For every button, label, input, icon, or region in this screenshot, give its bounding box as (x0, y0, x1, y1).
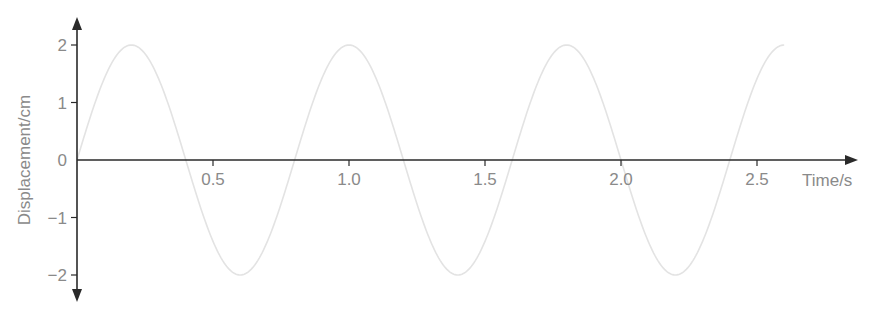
y-tick-label: −2 (48, 266, 67, 285)
y-tick-label: 0 (58, 151, 67, 170)
y-tick-label: −1 (48, 209, 67, 228)
x-tick-label: 2.5 (745, 170, 769, 189)
x-axis-title: Time/s (802, 171, 852, 190)
y-axis-arrow-down-icon (72, 289, 82, 302)
x-tick-label: 2.0 (609, 170, 633, 189)
x-tick-label: 1.0 (337, 170, 361, 189)
x-tick-label: 0.5 (201, 170, 225, 189)
x-axis-arrow-icon (845, 155, 858, 165)
y-tick-label: 2 (58, 36, 67, 55)
y-tick-label: 1 (58, 94, 67, 113)
x-tick-label: 1.5 (473, 170, 497, 189)
y-ticks: 210−1−2 (48, 36, 77, 285)
axes (72, 17, 858, 302)
y-axis-arrow-up-icon (72, 17, 82, 30)
y-axis-title: Displacement/cm (15, 95, 34, 225)
displacement-time-chart: 0.51.01.52.02.5 210−1−2 Time/s Displacem… (0, 0, 881, 314)
